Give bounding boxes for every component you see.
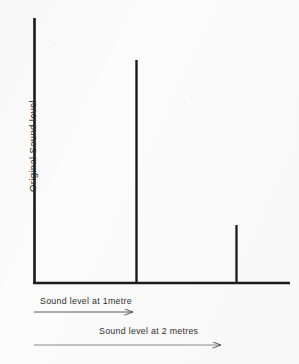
chart-canvas (0, 0, 299, 364)
y-axis-label: Original Sound level (27, 100, 38, 192)
two-metre-annotation-label: Sound level at 2 metres (99, 326, 198, 336)
one-metre-annotation-label: Sound level at 1metre (40, 296, 132, 306)
sound-level-diagram: Original Sound level Sound level at 1met… (0, 0, 299, 364)
